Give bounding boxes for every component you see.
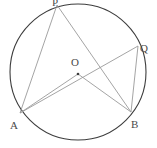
- point-label-q: Q: [140, 43, 148, 54]
- segment-pa: [20, 5, 57, 113]
- geometry-figure: P Q A B O: [0, 0, 157, 148]
- segment-oa: [20, 74, 78, 113]
- point-label-a: A: [10, 120, 18, 131]
- segment-ob: [78, 74, 131, 112]
- circle-outline: [10, 4, 146, 140]
- point-label-p: P: [52, 0, 58, 8]
- point-label-o: O: [71, 57, 79, 68]
- segment-qb: [131, 46, 138, 112]
- segment-pb: [57, 5, 131, 112]
- segment-qa: [20, 46, 138, 113]
- point-label-b: B: [131, 119, 138, 130]
- center-dot: [77, 73, 80, 76]
